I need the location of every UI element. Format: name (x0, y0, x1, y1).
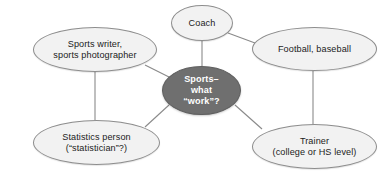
node-sports-writer[interactable]: Sports writer, sports photographer (33, 27, 157, 72)
node-coach[interactable]: Coach (171, 5, 233, 41)
edge-center-to-trainer (235, 105, 262, 129)
node-trainer[interactable]: Trainer (college or HS level) (252, 124, 377, 169)
node-football-baseball-label: Football, baseball (272, 44, 357, 55)
edge-center-to-sports-writer (145, 65, 169, 77)
node-center-topic-label: Sports– what “work”? (177, 74, 226, 106)
edge-coach-to-football-baseball (228, 33, 255, 43)
edge-center-to-statistics-person (145, 105, 169, 127)
node-coach-label: Coach (183, 18, 222, 29)
node-center-topic[interactable]: Sports– what “work”? (162, 66, 241, 115)
node-sports-writer-label: Sports writer, sports photographer (47, 39, 142, 60)
node-statistics-person[interactable]: Statistics person (“statistician”?) (33, 120, 160, 165)
node-football-baseball[interactable]: Football, baseball (252, 27, 377, 71)
node-trainer-label: Trainer (college or HS level) (267, 136, 363, 157)
node-statistics-person-label: Statistics person (“statistician”?) (56, 132, 136, 153)
concept-map-diagram: Sports writer, sports photographer Coach… (0, 0, 391, 171)
